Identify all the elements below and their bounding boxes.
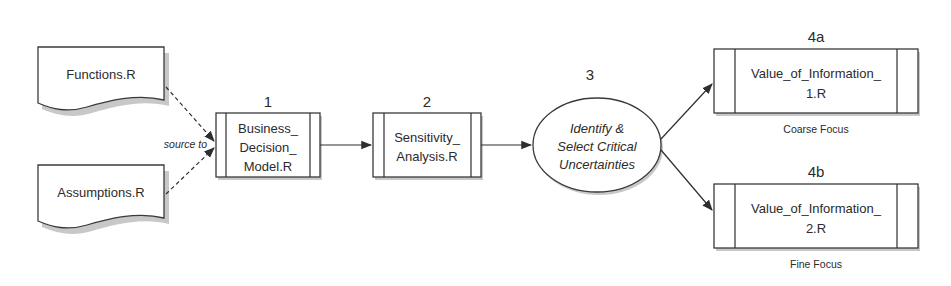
step4b-caption: Fine Focus xyxy=(790,258,842,270)
edge-assumptions-to-step1 xyxy=(166,148,214,194)
workflow-diagram: Functions.R Assumptions.R source to 1 Bu… xyxy=(0,0,951,286)
step4b-number: 4b xyxy=(808,163,825,180)
step1-process-node: 1 Business_ Decision_ Model.R xyxy=(216,93,322,180)
step4a-line-1: Value_of_Information_ xyxy=(751,66,882,81)
step2-number: 2 xyxy=(423,93,431,110)
step4b-line-1: Value_of_Information_ xyxy=(751,201,882,216)
step1-line-2: Decision_ xyxy=(239,140,297,155)
assumptions-document-node: Assumptions.R xyxy=(38,165,169,234)
step3-decision-node: 3 Identify & Select Critical Uncertainti… xyxy=(533,66,663,195)
edge-step3-to-step4a xyxy=(661,84,712,139)
step4a-caption: Coarse Focus xyxy=(783,123,848,135)
step2-line-1: Sensitivity_ xyxy=(394,130,461,145)
edge-step3-to-step4b xyxy=(661,150,712,210)
step1-line-1: Business_ xyxy=(238,121,299,136)
step4a-process-node: 4a Value_of_Information_ 1.R Coarse Focu… xyxy=(714,28,920,135)
step2-line-2: Analysis.R xyxy=(396,149,457,164)
step4b-process-node: 4b Value_of_Information_ 2.R Fine Focus xyxy=(714,163,920,270)
step1-number: 1 xyxy=(264,93,272,110)
step3-line-1: Identify & xyxy=(570,121,624,136)
functions-label: Functions.R xyxy=(66,67,135,82)
source-to-label: source to xyxy=(164,138,207,150)
edge-functions-to-step1 xyxy=(166,87,214,141)
step1-line-3: Model.R xyxy=(244,159,292,174)
assumptions-label: Assumptions.R xyxy=(57,185,144,200)
step4b-line-2: 2.R xyxy=(806,221,826,236)
step2-process-node: 2 Sensitivity_ Analysis.R xyxy=(373,93,483,180)
step3-line-2: Select Critical xyxy=(557,139,638,154)
step4a-line-2: 1.R xyxy=(806,86,826,101)
step3-line-3: Uncertainties xyxy=(559,157,635,172)
functions-document-node: Functions.R xyxy=(38,47,169,116)
step3-number: 3 xyxy=(586,66,594,83)
step4a-number: 4a xyxy=(808,28,825,45)
